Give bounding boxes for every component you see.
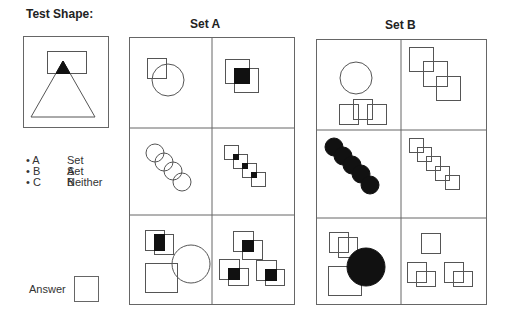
set-a-cell-2 — [226, 60, 259, 93]
set-b-cell-4 — [410, 139, 460, 190]
set-a-cell-3 — [146, 144, 191, 191]
figure-canvas — [0, 0, 506, 325]
set-b-cell-5 — [329, 233, 386, 296]
set-a-cell-5 — [146, 231, 211, 293]
set-a-cell-1 — [148, 59, 185, 97]
overlap-fill — [56, 61, 70, 74]
set-b-cell-2 — [410, 48, 461, 101]
set-b-cell-3 — [325, 138, 379, 194]
set-b-cell-6 — [408, 234, 473, 287]
set-a-grid — [129, 37, 295, 305]
test-shape — [24, 37, 109, 128]
set-a-cell-4 — [225, 146, 266, 187]
set-b-cell-1 — [340, 62, 387, 125]
set-a-cell-6 — [220, 232, 285, 286]
